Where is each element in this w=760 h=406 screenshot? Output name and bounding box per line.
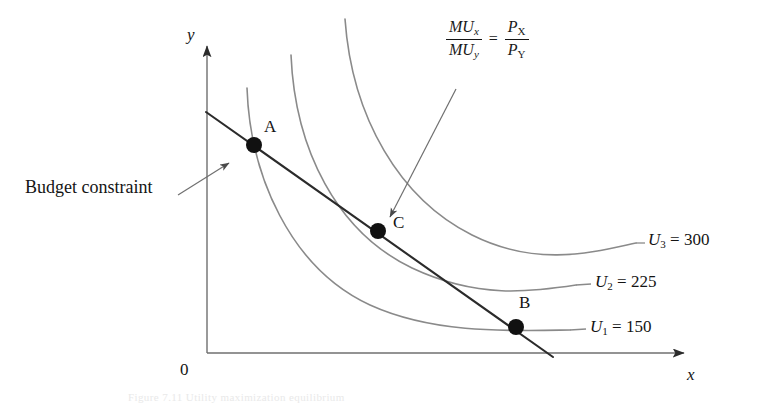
indifference-curve-diagram: y x 0 A C B Budget constraint U1 = 150 U… (0, 0, 760, 406)
u3-value: 300 (684, 230, 710, 249)
budget-constraint-leader-arrow (178, 163, 229, 195)
p-x-symbol: P (508, 18, 518, 35)
p-y-subscript: Y (518, 48, 526, 60)
indifference-curves (247, 19, 636, 331)
point-c-label: C (393, 214, 404, 231)
p-x-subscript: X (518, 25, 526, 37)
u2-subscript: 2 (607, 280, 613, 292)
curve-label-u3: U3 = 300 (648, 231, 709, 250)
y-axis-label: y (187, 26, 195, 43)
mu-y-subscript: y (474, 48, 479, 60)
marginal-utility-ratio: MUx MUy (446, 18, 482, 60)
point-c-marker (370, 223, 386, 239)
u3-symbol: U (648, 230, 660, 249)
u3-equals: = (670, 230, 680, 249)
mu-x-subscript: x (474, 25, 479, 37)
point-b-marker (508, 319, 524, 335)
indifference-curve-u2 (291, 55, 576, 291)
plot-points (246, 137, 524, 335)
p-y-symbol: P (508, 41, 518, 58)
formula-equals-sign: = (482, 30, 505, 48)
u2-value: 225 (631, 272, 657, 291)
price-numerator: PX (505, 18, 529, 39)
axis-lines (207, 46, 684, 353)
point-a-marker (246, 137, 262, 153)
mu-x-symbol: MU (449, 18, 474, 35)
u1-symbol: U (590, 317, 602, 336)
optimum-condition-formula: MUx MUy = PX PY (446, 18, 529, 60)
optimum-condition-leader-arrow (390, 89, 456, 217)
mu-numerator: MUx (446, 18, 482, 39)
figure-caption: Figure 7.11 Utility maximization equilib… (128, 391, 345, 403)
x-axis-label: x (687, 366, 695, 383)
point-a-label: A (264, 118, 276, 135)
u2-symbol: U (595, 272, 607, 291)
u2-equals: = (617, 272, 627, 291)
mu-y-symbol: MU (449, 41, 474, 58)
u1-value: 150 (626, 317, 652, 336)
curve-label-u1: U1 = 150 (590, 318, 651, 337)
u3-subscript: 3 (660, 238, 666, 250)
diagram-canvas (0, 0, 760, 406)
budget-constraint-label: Budget constraint (25, 178, 152, 196)
price-ratio: PX PY (505, 18, 529, 60)
curve-label-u2: U2 = 225 (595, 273, 656, 292)
u2-label-leader (576, 284, 591, 285)
mu-denominator: MUy (446, 40, 482, 61)
price-denominator: PY (505, 40, 529, 61)
u1-label-leader (570, 329, 586, 330)
origin-label: 0 (180, 361, 189, 378)
u1-subscript: 1 (602, 325, 608, 337)
u1-equals: = (612, 317, 622, 336)
point-b-label: B (519, 294, 530, 311)
